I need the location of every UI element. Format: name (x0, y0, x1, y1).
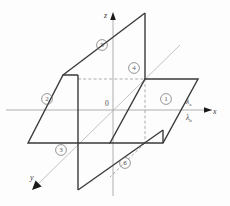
lambda-a-label: λa (185, 97, 192, 107)
region-6-number: 6 (123, 159, 127, 167)
hidden-edge-oblique (110, 143, 145, 177)
horizontal-plane-right (110, 79, 198, 143)
lambda-b-subscript: b (189, 118, 192, 123)
region-2-number: 2 (45, 95, 49, 103)
region-4-number: 4 (132, 64, 136, 72)
region-1-number: 1 (164, 95, 168, 103)
geometry-figure: 0 x z y λa λb 1 2 3 4 (0, 0, 230, 206)
region-label-6: 6 (120, 158, 131, 169)
x-axis-arrow (204, 107, 212, 113)
region-label-3: 3 (56, 145, 67, 156)
x-axis-label: x (212, 107, 217, 116)
region-3-number: 3 (59, 146, 63, 154)
y-axis-label: y (29, 173, 34, 182)
hidden-edges-group (78, 79, 145, 177)
region-label-4: 4 (129, 63, 140, 74)
y-axis-line (36, 45, 180, 186)
region-5-number: 5 (100, 41, 104, 49)
lambda-b-label: λb (185, 113, 192, 123)
z-axis-label: z (103, 11, 108, 20)
horizontal-plane-left (28, 75, 110, 143)
region-label-5: 5 (97, 40, 108, 51)
origin-label: 0 (105, 99, 109, 108)
z-axis-arrow (110, 12, 116, 20)
lambda-a-subscript: a (189, 102, 192, 107)
region-label-1: 1 (161, 94, 172, 105)
